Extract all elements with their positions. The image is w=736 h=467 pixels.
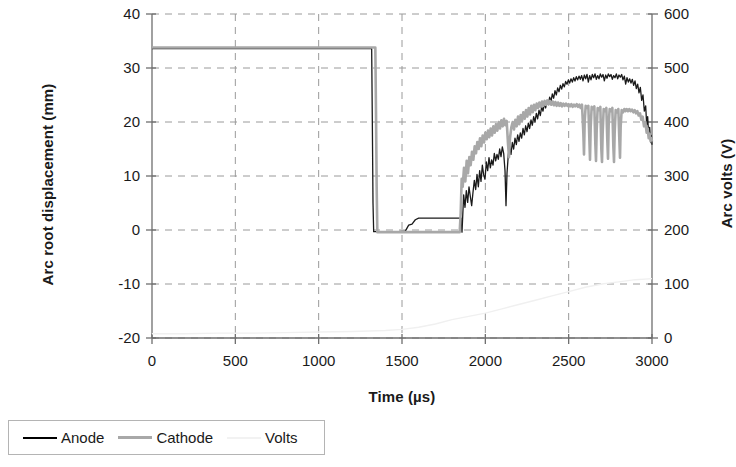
y2-tick-label: 0 [664,329,710,346]
x-tick-label: 0 [122,352,182,369]
legend-swatch-volts [227,437,261,439]
y-tick-label: 10 [94,167,140,184]
x-tick-label: 1000 [289,352,349,369]
x-tick-label: 3000 [622,352,682,369]
y-tick-label: 20 [94,113,140,130]
y2-tick-label: 100 [664,275,710,292]
legend-label-volts: Volts [265,429,298,446]
x-tick-label: 2000 [455,352,515,369]
y2-tick-label: 600 [664,5,710,22]
y2-tick-label: 200 [664,221,710,238]
y2-tick-label: 400 [664,113,710,130]
y-tick-label: 30 [94,59,140,76]
legend-label-cathode: Cathode [156,429,213,446]
x-tick-label: 1500 [372,352,432,369]
y2-tick-label: 500 [664,59,710,76]
legend-swatch-anode [23,437,57,439]
legend-swatch-cathode [118,436,152,439]
x-tick-label: 500 [205,352,265,369]
legend-label-anode: Anode [61,429,104,446]
y-tick-label: 40 [94,5,140,22]
chart-legend: Anode Cathode Volts [8,420,325,455]
y-tick-label: -20 [94,329,140,346]
chart-root: Arc root displacement (mm) Arc volts (V)… [0,0,736,467]
series-line-anode [152,49,652,233]
y2-tick-label: 300 [664,167,710,184]
x-tick-label: 2500 [539,352,599,369]
y-tick-label: -10 [94,275,140,292]
y-tick-label: 0 [94,221,140,238]
series-line-cathode [152,47,652,232]
